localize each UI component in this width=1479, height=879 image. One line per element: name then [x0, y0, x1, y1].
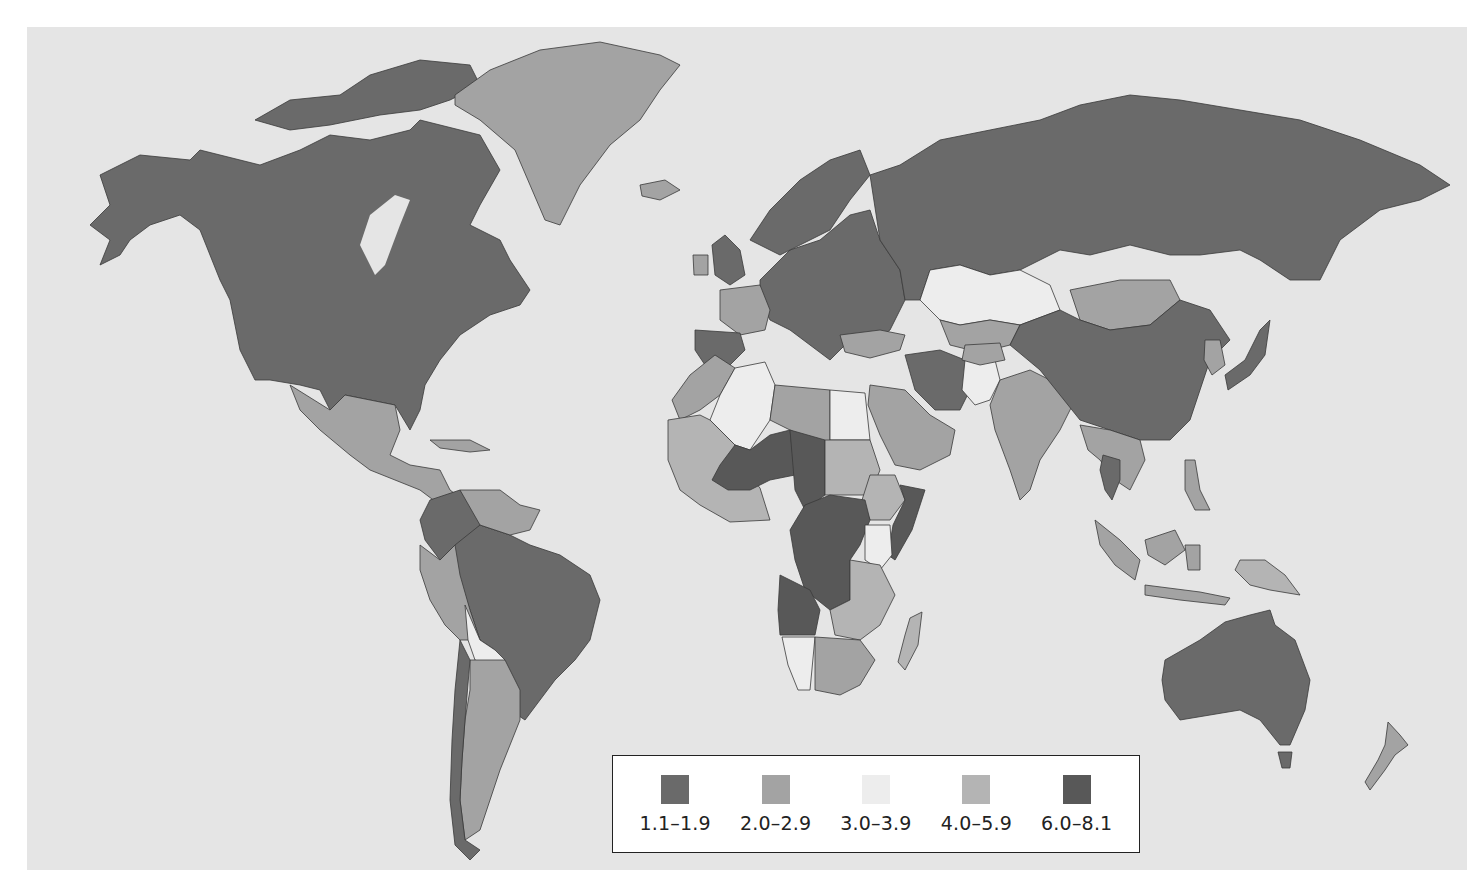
- region-southern-africa: [815, 637, 875, 695]
- legend-item-3: 3.0–3.9: [828, 775, 924, 834]
- region-australia: [1162, 610, 1310, 745]
- region-greenland: [455, 42, 680, 225]
- legend-swatch-3: [862, 775, 890, 804]
- region-afghanistan: [962, 343, 1005, 365]
- region-tasmania: [1278, 752, 1292, 768]
- region-japan: [1225, 320, 1270, 390]
- legend-item-1: 1.1–1.9: [627, 775, 723, 834]
- region-thailand: [1100, 455, 1120, 500]
- legend-item-5: 6.0–8.1: [1029, 775, 1125, 834]
- legend-swatch-4: [962, 775, 990, 804]
- legend-swatch-1: [661, 775, 689, 804]
- region-uk: [712, 235, 745, 285]
- region-namibia: [782, 637, 815, 690]
- region-argentina: [460, 660, 520, 840]
- world-map: [0, 0, 1479, 879]
- legend-label-4: 4.0–5.9: [941, 812, 1012, 834]
- legend-label-1: 1.1–1.9: [640, 812, 711, 834]
- region-indonesia: [1095, 520, 1230, 605]
- region-philippines: [1185, 460, 1210, 510]
- region-canadian-arctic: [255, 60, 480, 130]
- region-new-zealand: [1365, 722, 1408, 790]
- region-north-america: [90, 120, 530, 430]
- legend-label-5: 6.0–8.1: [1041, 812, 1112, 834]
- region-turkey: [840, 330, 905, 358]
- region-ireland: [693, 255, 708, 275]
- legend-item-2: 2.0–2.9: [728, 775, 824, 834]
- legend-label-3: 3.0–3.9: [840, 812, 911, 834]
- legend-swatch-5: [1063, 775, 1091, 804]
- region-madagascar: [898, 612, 922, 670]
- region-france: [720, 285, 770, 335]
- region-png: [1235, 560, 1300, 595]
- legend-item-4: 4.0–5.9: [928, 775, 1024, 834]
- map-legend: 1.1–1.9 2.0–2.9 3.0–3.9 4.0–5.9 6.0–8.1: [612, 755, 1140, 853]
- region-chad: [790, 430, 825, 510]
- legend-label-2: 2.0–2.9: [740, 812, 811, 834]
- region-egypt: [830, 390, 870, 440]
- region-cuba: [430, 440, 490, 452]
- region-iceland: [640, 180, 680, 200]
- legend-swatch-2: [762, 775, 790, 804]
